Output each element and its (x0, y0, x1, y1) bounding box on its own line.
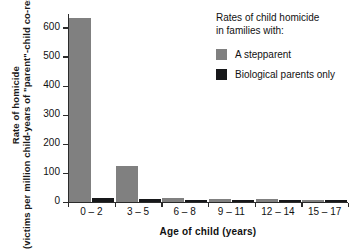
bar-biological (185, 200, 207, 202)
bar-stepparent (69, 18, 91, 202)
bar-stepparent (302, 200, 324, 202)
bar-stepparent (116, 166, 138, 202)
bar-stepparent (209, 199, 231, 202)
x-tick-label: 9 – 11 (218, 206, 245, 217)
y-tick: 100 (63, 173, 68, 174)
legend-swatch-icon (216, 49, 227, 60)
bar-biological (232, 200, 254, 202)
x-tick-label: 3 – 5 (127, 206, 149, 217)
bar-biological (279, 200, 301, 202)
x-axis-tick-labels: 0 – 23 – 56 – 89 – 1112 – 1415 – 17 (68, 206, 348, 222)
y-tick: 200 (63, 144, 68, 145)
bar-stepparent (162, 198, 184, 202)
bar-biological (139, 199, 161, 202)
y-tick-label: 400 (43, 79, 60, 90)
legend-swatch-icon (216, 69, 227, 80)
legend-title-line-2: in families with: (216, 25, 361, 38)
legend-items: A stepparentBiological parents only (216, 49, 361, 80)
y-axis-title: Rate of homicide (victims per million ch… (0, 0, 42, 210)
y-axis-title-main: Rate of homicide (10, 0, 21, 249)
y-tick: 600 (63, 27, 68, 28)
legend-item-label: A stepparent (235, 49, 291, 60)
y-tick-label: 500 (43, 50, 60, 61)
legend-item-label: Biological parents only (235, 69, 335, 80)
bar-biological (92, 198, 114, 202)
bar-biological (325, 200, 347, 202)
x-axis-title: Age of child (years) (68, 226, 348, 237)
y-tick-label: 300 (43, 108, 60, 119)
x-tick-label: 0 – 2 (80, 206, 102, 217)
y-tick: 300 (63, 115, 68, 116)
y-tick-label: 200 (43, 137, 60, 148)
x-tick-label: 6 – 8 (174, 206, 196, 217)
chart-figure: Rate of homicide (victims per million ch… (0, 0, 361, 249)
y-tick: 500 (63, 56, 68, 57)
x-tick-label: 15 – 17 (308, 206, 341, 217)
bar-stepparent (256, 199, 278, 202)
y-tick-label: 100 (43, 166, 60, 177)
x-tick (348, 203, 349, 207)
x-tick-label: 12 – 14 (261, 206, 294, 217)
y-axis-title-sub: (victims per million child-years of "par… (21, 0, 32, 249)
chart-legend: Rates of child homicide in families with… (216, 12, 361, 89)
legend-title-line-1: Rates of child homicide (216, 12, 361, 25)
legend-item: A stepparent (216, 49, 361, 60)
legend-item: Biological parents only (216, 69, 361, 80)
y-tick-label: 600 (43, 21, 60, 32)
y-tick-label: 0 (54, 195, 60, 206)
legend-title: Rates of child homicide in families with… (216, 12, 361, 38)
y-tick: 400 (63, 86, 68, 87)
